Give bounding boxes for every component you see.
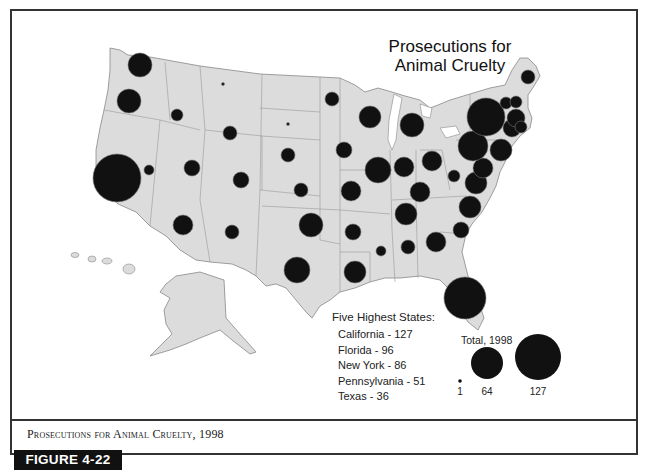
state-circle-nv (144, 165, 154, 175)
state-circle-mi (400, 113, 424, 137)
state-circle-ny (467, 98, 505, 136)
map-title: Prosecutions for Animal Cruelty (370, 37, 530, 75)
state-circle-fl (444, 277, 486, 319)
state-circle-nj (490, 139, 512, 161)
state-circle-ut (184, 160, 200, 176)
state-circle-mn (325, 92, 339, 106)
top-state-item: California - 127 (338, 327, 425, 343)
alaska-shape (150, 272, 256, 356)
state-circle-ne (294, 183, 308, 197)
size-key-label: 1 (445, 386, 475, 397)
size-key-label: 64 (472, 386, 502, 397)
state-circle-co (233, 172, 249, 188)
state-circle-ms (376, 246, 386, 256)
state-circle-mt (222, 83, 225, 86)
state-circle-sd (281, 148, 295, 162)
state-circle-oh (422, 151, 442, 171)
top-state-item: Texas - 36 (338, 389, 425, 405)
state-circle-ky (410, 182, 430, 202)
state-circle-id (171, 109, 183, 121)
state-circle-ri (515, 121, 527, 133)
state-circle-or (117, 89, 141, 113)
state-circle-il (365, 157, 391, 183)
figure-caption: Prosecutions for Animal Cruelty, 1998 (27, 427, 224, 442)
state-circle-tn (395, 203, 417, 225)
state-circle-ia (336, 142, 352, 158)
state-circle-mo (341, 181, 361, 201)
size-key-label: 127 (523, 386, 553, 397)
state-circle-nh (510, 96, 522, 108)
legend-circle-64 (471, 347, 503, 379)
state-circle-wa (128, 53, 152, 77)
state-circle-nm (225, 225, 239, 239)
top-state-item: Pennsylvania - 51 (338, 374, 425, 390)
legend-heading: Five Highest States: (332, 311, 435, 323)
state-circle-nd (287, 123, 290, 126)
state-circle-wv (448, 170, 460, 182)
state-circle-az (173, 215, 193, 235)
top-states-list: California - 127 Florida - 96 New York -… (338, 327, 425, 405)
us-map (12, 11, 638, 419)
state-circle-al (401, 240, 415, 254)
legend-circle-127 (515, 334, 561, 380)
state-circle-ar (345, 224, 361, 240)
state-circle-wy (223, 126, 237, 140)
state-circle-la (344, 261, 366, 283)
top-state-item: New York - 86 (338, 358, 425, 374)
state-circle-sc (453, 222, 469, 238)
hawaii-islands (71, 253, 135, 275)
state-circle-ca (93, 154, 141, 202)
caption-divider (10, 419, 638, 421)
state-circle-ok (299, 213, 323, 237)
size-key-title: Total, 1998 (461, 334, 512, 346)
state-circle-wi (359, 106, 381, 128)
state-circle-ga (426, 232, 446, 252)
state-circle-in (394, 157, 414, 177)
legend-circle-1 (458, 379, 462, 383)
figure-label: FIGURE 4-22 (14, 450, 122, 470)
state-circle-tx (284, 257, 310, 283)
top-state-item: Florida - 96 (338, 343, 425, 359)
state-circle-nc (459, 196, 481, 218)
